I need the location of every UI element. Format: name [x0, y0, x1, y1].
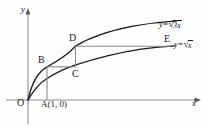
figure-canvas [0, 0, 208, 126]
curve-lower-sqrtx [28, 46, 175, 100]
x-axis-label: x [192, 99, 196, 108]
y-axis-arrowhead [26, 8, 31, 15]
point-label-C: C [72, 69, 79, 79]
radical-sign-icon: √ [184, 40, 189, 50]
y-axis-label: y [21, 5, 25, 14]
geometry-figure: y x O A(1, 0) B C D E y= √ 3x y= √ x [0, 0, 208, 126]
point-label-A: A(1, 0) [41, 100, 67, 109]
point-label-B: B [38, 55, 45, 65]
point-label-E: E [164, 34, 170, 44]
point-label-D: D [69, 33, 76, 43]
radical-sign-icon: √ [169, 20, 174, 30]
equation-label-upper-curve: y= √ 3x [159, 20, 182, 30]
equation-lhs-upper: y= [159, 20, 169, 29]
point-label-O: O [17, 98, 24, 108]
equation-lhs-lower: y= [174, 40, 184, 49]
radicand-upper: 3x [173, 20, 182, 30]
curve-upper-sqrt3x [28, 21, 177, 100]
equation-label-lower-curve: y= √ x [174, 40, 193, 50]
